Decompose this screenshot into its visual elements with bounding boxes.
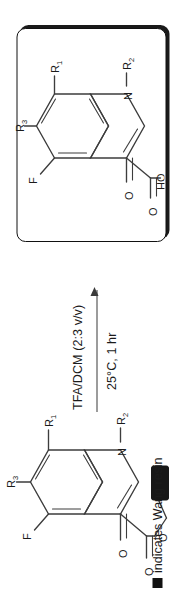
reactant-ketone-oxygen: O [116,549,128,558]
reaction-arrow-shaft [96,290,97,412]
resin-legend-square [152,578,162,588]
reactant-structure: O F R3 R1 N R2 O O [4,382,172,592]
product-fluorine-label: F [26,177,38,184]
product-acid-carbonyl-oxygen: O [146,207,158,216]
product-r1-label: R1 [48,61,63,73]
reactant-r1-label: R1 [42,415,57,427]
reactant-fluorine-label: F [20,533,32,540]
product-ketone-oxygen: O [122,191,134,200]
reaction-arrow-head [90,287,98,296]
product-nitrogen-label: N [121,92,133,100]
legend-row: indicates Wang resin [150,457,164,588]
product-structure: O F R3 R1 N R2 O HO [14,30,164,230]
reaction-scheme: O F R3 R1 N R2 O O [0,0,173,596]
arrow-conditions-label: 25°C, 1 hr [104,333,118,390]
reactant-nitrogen-label: N [115,448,127,456]
product-acid-hydroxyl-label: HO [154,173,164,190]
product-r2-label: R2 [120,58,135,70]
arrow-reagent-label: TFA/DCM (2:3 v/v) [70,305,84,410]
resin-legend-text: indicates Wang resin [150,457,164,573]
reactant-r2-label: R2 [114,413,129,425]
